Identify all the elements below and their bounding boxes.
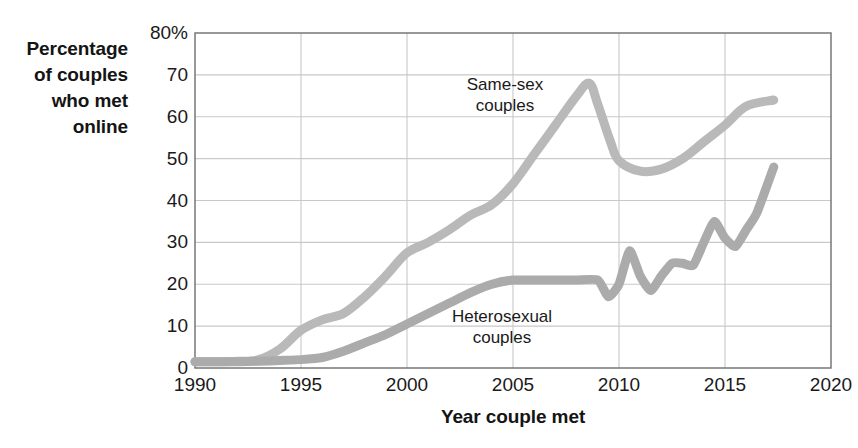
series-label-heterosexual-couples: Heterosexual couples xyxy=(424,306,580,348)
series-label-same-sex-couples: Same-sex couples xyxy=(444,74,566,116)
chart-figure: Percentage of couples who met online 010… xyxy=(0,0,858,448)
x-axis-title: Year couple met xyxy=(195,406,831,428)
series-label-heterosexual-line-1: Heterosexual xyxy=(424,306,580,327)
series-label-heterosexual-line-2: couples xyxy=(424,327,580,348)
series-label-same-sex-line-1: Same-sex xyxy=(444,74,566,95)
plot-area xyxy=(0,0,858,448)
series-label-same-sex-line-2: couples xyxy=(444,95,566,116)
